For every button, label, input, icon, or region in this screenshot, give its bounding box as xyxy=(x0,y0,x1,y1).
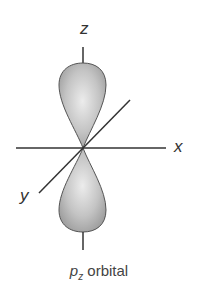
caption-suffix: orbital xyxy=(83,262,128,279)
lower-lobe xyxy=(59,148,106,232)
z-axis-label: z xyxy=(80,19,89,39)
caption-p: p xyxy=(70,262,78,279)
upper-lobe xyxy=(59,63,106,148)
y-axis-label: y xyxy=(20,186,29,206)
x-axis-label: x xyxy=(174,137,183,157)
pz-orbital-diagram xyxy=(0,0,198,285)
orbital-caption: pz orbital xyxy=(0,262,198,282)
